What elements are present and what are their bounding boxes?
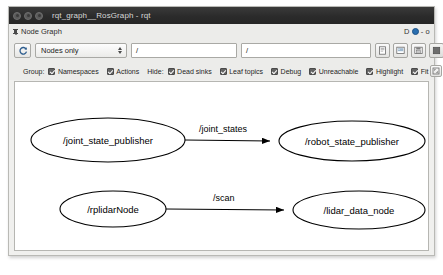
checkbox-icon — [107, 68, 114, 75]
checkbox-label: Fit — [421, 68, 429, 75]
close-button[interactable] — [13, 12, 21, 20]
checkbox-icon — [220, 68, 227, 75]
filter-include-input[interactable]: / — [131, 43, 237, 58]
filter-exclude-input[interactable]: / — [241, 43, 371, 58]
checkbox-label: Debug — [281, 68, 302, 75]
checkbox-dead-sinks[interactable]: Dead sinks — [168, 68, 212, 75]
checkbox-label: Actions — [116, 68, 139, 75]
chevron-updown-icon — [118, 47, 123, 54]
graph-edge-scan[interactable]: /scan — [166, 193, 284, 210]
checkbox-icon — [366, 68, 373, 75]
graph-options-bar: Group: Namespaces Actions Hide: Dead sin… — [9, 62, 434, 80]
group-label: Group: — [23, 68, 44, 75]
graph-node-rplidarNode[interactable]: /rplidarNode — [60, 191, 166, 227]
graph-toolbar: Nodes only / / — [9, 39, 434, 62]
dock-close-label[interactable]: o — [426, 27, 430, 36]
image-save-icon[interactable] — [411, 43, 426, 58]
hide-label: Hide: — [147, 68, 163, 75]
checkbox-icon — [48, 68, 55, 75]
node-label: /lidar_data_node — [324, 205, 395, 216]
graph-canvas[interactable]: /joint_states /scan /joint_state_publish… — [14, 81, 429, 251]
checkbox-unreachable[interactable]: Unreachable — [309, 68, 358, 75]
checkbox-icon — [271, 68, 278, 75]
file-icon[interactable] — [375, 43, 390, 58]
checkbox-leaf-topics[interactable]: Leaf topics — [220, 68, 263, 75]
edge-label: /joint_states — [199, 124, 248, 134]
pin-icon[interactable] — [12, 28, 20, 36]
dock-float-label[interactable]: D — [404, 27, 410, 36]
toolbar-actions — [375, 43, 443, 58]
graph-type-value: Nodes only — [41, 46, 79, 55]
window-controls — [13, 12, 43, 20]
checkbox-icon — [168, 68, 175, 75]
edge-line — [166, 209, 284, 210]
window-titlebar[interactable]: rqt_graph__RosGraph - rqt — [9, 7, 434, 24]
graph-edge-joint_states[interactable]: /joint_states — [185, 124, 270, 141]
checkbox-debug[interactable]: Debug — [271, 68, 301, 75]
dock-widget-header: Node Graph D - o — [9, 24, 434, 39]
checkbox-label: Highlight — [376, 68, 403, 75]
graph-node-joint_state_publisher[interactable]: /joint_state_publisher — [31, 118, 185, 162]
checkbox-namespaces[interactable]: Namespaces — [48, 68, 98, 75]
square-icon[interactable] — [429, 43, 443, 58]
node-label: /rplidarNode — [87, 204, 139, 215]
checkbox-label: Unreachable — [319, 68, 359, 75]
maximize-button[interactable] — [35, 12, 43, 20]
graph-svg: /joint_states /scan /joint_state_publish… — [15, 82, 428, 250]
checkbox-label: Namespaces — [58, 68, 99, 75]
checkbox-label: Dead sinks — [177, 68, 212, 75]
dock-separator: - — [421, 27, 424, 36]
edge-line — [185, 140, 270, 141]
edge-label: /scan — [213, 193, 235, 203]
checkbox-highlight[interactable]: Highlight — [366, 68, 403, 75]
minimize-button[interactable] — [24, 12, 32, 20]
dock-controls: D - o — [404, 27, 430, 36]
checkbox-label: Leaf topics — [229, 68, 263, 75]
graph-node-robot_state_publisher[interactable]: /robot_state_publisher — [279, 121, 425, 161]
window-title: rqt_graph__RosGraph - rqt — [52, 11, 151, 20]
graph-node-lidar_data_node[interactable]: /lidar_data_node — [293, 191, 425, 229]
node-label: /robot_state_publisher — [305, 136, 399, 147]
fit-icon[interactable] — [430, 65, 442, 77]
node-label: /joint_state_publisher — [63, 135, 153, 146]
checkbox-fit[interactable]: Fit — [411, 68, 428, 75]
screenshot-root: rqt_graph__RosGraph - rqt Node Graph D -… — [0, 0, 443, 275]
rqt-main-window: rqt_graph__RosGraph - rqt Node Graph D -… — [8, 6, 435, 256]
dock-title: Node Graph — [21, 27, 62, 36]
image-icon[interactable] — [393, 43, 408, 58]
checkbox-icon — [411, 68, 418, 75]
graph-type-select[interactable]: Nodes only — [35, 43, 127, 58]
refresh-icon[interactable] — [14, 43, 31, 58]
checkbox-actions[interactable]: Actions — [107, 68, 139, 75]
float-icon[interactable] — [412, 28, 419, 35]
checkbox-icon — [309, 68, 316, 75]
